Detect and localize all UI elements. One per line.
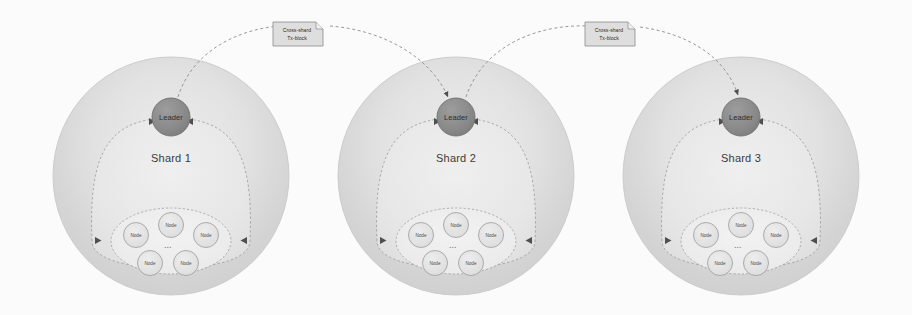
node-label: Node — [201, 233, 212, 238]
shard-3-group[interactable]: Shard 3 Node Node Node Node Node ... Lea… — [623, 57, 859, 295]
shard-1-node-4[interactable]: Node — [138, 251, 163, 276]
node-label: Node — [771, 233, 782, 238]
note-line-2: Tx-block — [287, 35, 307, 41]
shard-2-node-4[interactable]: Node — [423, 251, 448, 276]
shard-2-title: Shard 2 — [436, 152, 476, 164]
shard-2-node-2[interactable]: Node — [444, 213, 469, 238]
shard-3-leader[interactable]: Leader — [722, 98, 760, 136]
leader-label: Leader — [444, 113, 468, 122]
shard-3-node-5[interactable]: Node — [744, 251, 769, 276]
shard-1-title: Shard 1 — [151, 152, 191, 164]
node-label: Node — [736, 223, 747, 228]
node-label: Node — [430, 261, 441, 266]
note-line-1: Cross-shard — [595, 27, 623, 33]
node-label: Node — [466, 261, 477, 266]
shard-1-node-5[interactable]: Node — [174, 251, 199, 276]
shard-3-nodes-ellipsis: ... — [734, 242, 742, 249]
node-label: Node — [486, 233, 497, 238]
shard-2-leader[interactable]: Leader — [437, 98, 475, 136]
shard-1-leader[interactable]: Leader — [152, 98, 190, 136]
node-label: Node — [416, 233, 427, 238]
cross-shard-note-2-3[interactable]: Cross-shard Tx-block — [585, 22, 635, 46]
shard-2-node-1[interactable]: Node — [409, 223, 434, 248]
node-label: Node — [451, 223, 462, 228]
shard-3-node-3[interactable]: Node — [764, 223, 789, 248]
leader-label: Leader — [729, 113, 753, 122]
shard-2-node-3[interactable]: Node — [479, 223, 504, 248]
note-line-2: Tx-block — [599, 35, 619, 41]
shard-1-group[interactable]: Shard 1 Node Node Node Node Node ... Lea… — [53, 57, 289, 295]
shard-1-node-3[interactable]: Node — [194, 223, 219, 248]
node-label: Node — [131, 233, 142, 238]
cross-shard-note-1-2[interactable]: Cross-shard Tx-block — [273, 22, 323, 46]
shard-3-node-1[interactable]: Node — [694, 223, 719, 248]
shard-3-title: Shard 3 — [721, 152, 761, 164]
note-body — [585, 22, 635, 46]
shard-3-node-4[interactable]: Node — [708, 251, 733, 276]
node-label: Node — [715, 261, 726, 266]
sharded-blockchain-diagram: Shard 1 Node Node Node Node Node ... Lea… — [0, 0, 912, 315]
shard-1-nodes-ellipsis: ... — [164, 242, 172, 249]
node-label: Node — [751, 261, 762, 266]
node-label: Node — [181, 261, 192, 266]
note-body — [273, 22, 323, 46]
shard-1-node-1[interactable]: Node — [124, 223, 149, 248]
shard-2-group[interactable]: Shard 2 Node Node Node Node Node ... Lea… — [338, 57, 574, 295]
shard-2-nodes-ellipsis: ... — [449, 242, 457, 249]
shard-2-node-5[interactable]: Node — [459, 251, 484, 276]
node-label: Node — [145, 261, 156, 266]
shard-3-node-2[interactable]: Node — [729, 213, 754, 238]
diagram-canvas: Shard 1 Node Node Node Node Node ... Lea… — [0, 0, 912, 315]
node-label: Node — [701, 233, 712, 238]
node-label: Node — [166, 223, 177, 228]
shard-1-node-2[interactable]: Node — [159, 213, 184, 238]
note-line-1: Cross-shard — [283, 27, 311, 33]
leader-label: Leader — [159, 113, 183, 122]
